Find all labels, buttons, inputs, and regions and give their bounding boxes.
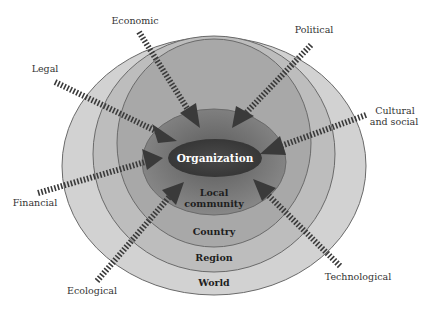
- organization-label: Organization: [177, 152, 254, 164]
- force-label-economic: Economic: [111, 15, 158, 26]
- region-label: Region: [195, 252, 233, 263]
- force-label-technological: Technological: [325, 271, 391, 282]
- environment-diagram: Organization Local community Country Reg…: [0, 0, 435, 309]
- country-label: Country: [193, 226, 236, 237]
- world-label: World: [197, 277, 230, 288]
- local-label-1: Local: [200, 187, 229, 198]
- force-label-cultural-2: and social: [370, 116, 419, 127]
- force-label-legal: Legal: [32, 63, 59, 74]
- force-label-political: Political: [295, 24, 334, 35]
- force-label-ecological: Ecological: [67, 285, 117, 296]
- force-label-cultural-1: Cultural: [375, 105, 415, 116]
- local-label-2: community: [184, 198, 244, 209]
- force-label-financial: Financial: [13, 197, 58, 208]
